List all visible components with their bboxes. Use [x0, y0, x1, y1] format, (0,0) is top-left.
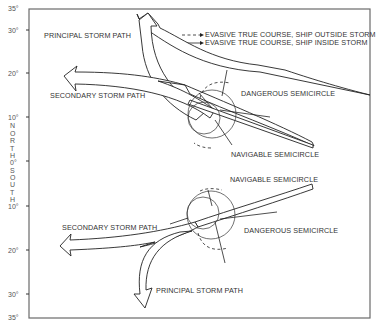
north-letter: N — [10, 122, 15, 129]
south-main-track — [195, 184, 313, 227]
storm-path-diagram: 35° 30° 20° 10° N O R T H 0° S O U T H 1… — [0, 0, 377, 331]
lat-label-20s: 20° — [8, 247, 19, 254]
south-evasive-solid-4 — [170, 218, 188, 224]
north-evasive-dashed-2 — [194, 143, 211, 148]
south-evasive-solid-1 — [215, 222, 225, 263]
lat-label-10s: 10° — [8, 203, 19, 210]
north-secondary-label: SECONDARY STORM PATH — [50, 91, 145, 100]
latitude-labels: 35° 30° 20° 10° N O R T H 0° S O U T H 1… — [8, 5, 19, 321]
legend-solid-arrow-icon — [200, 41, 204, 45]
north-letter: H — [10, 152, 15, 159]
southern-hemisphere: NAVIGABLE SEMICIRCLE DANGEROUS SEMICIRCL… — [60, 175, 338, 308]
north-navigable-label: NAVIGABLE SEMICIRCLE — [231, 150, 319, 159]
legend-dashed-arrow-icon — [200, 33, 204, 37]
lat-label-equator: 0° — [10, 159, 17, 166]
south-letter: S — [10, 167, 15, 174]
north-dangerous-label: DANGEROUS SEMICIRCLE — [241, 89, 335, 98]
legend: EVASIVE TRUE COURSE, SHIP OUTSIDE STORM … — [182, 30, 376, 47]
south-principal-label: PRINCIPAL STORM PATH — [156, 286, 243, 295]
south-evasive-dashed-2 — [200, 189, 222, 191]
lat-label-35s: 35° — [8, 314, 19, 321]
north-letter: T — [10, 145, 15, 152]
lat-label-10n: 10° — [8, 114, 19, 121]
south-letter: O — [10, 174, 16, 181]
south-navigable-label: NAVIGABLE SEMICIRCLE — [230, 175, 318, 184]
north-evasive-solid-3 — [215, 120, 232, 145]
lat-label-35n: 35° — [8, 5, 19, 12]
legend-solid-label: EVASIVE TRUE COURSE, SHIP INSIDE STORM — [205, 38, 368, 47]
south-letter: U — [10, 181, 15, 188]
north-letter: R — [10, 137, 15, 144]
south-secondary-label: SECONDARY STORM PATH — [62, 223, 157, 232]
lat-label-20n: 20° — [8, 70, 19, 77]
north-evasive-solid-1 — [222, 70, 227, 96]
north-letter: O — [10, 130, 16, 137]
south-letter: H — [10, 196, 15, 203]
north-main-track-inner — [188, 100, 313, 148]
lat-label-30s: 30° — [8, 291, 19, 298]
south-letter: T — [10, 189, 15, 196]
north-principal-label: PRINCIPAL STORM PATH — [44, 31, 131, 40]
lat-label-30n: 30° — [8, 27, 19, 34]
south-dangerous-label: DANGEROUS SEMICIRCLE — [244, 226, 338, 235]
